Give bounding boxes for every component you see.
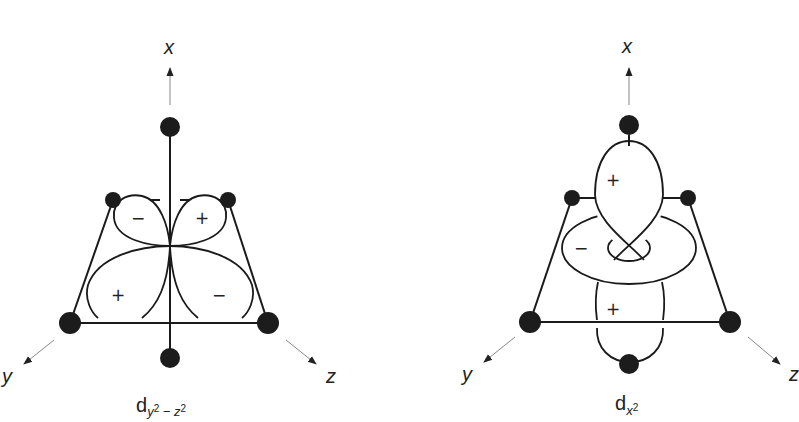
axis-y-arrow <box>24 340 54 364</box>
lobe-bottom-upper-left <box>596 282 598 320</box>
ligand-front-left <box>59 312 81 334</box>
ligand-back-right <box>220 192 236 208</box>
figure-dy2-z2: x y z − + + − <box>0 36 336 419</box>
ligand-bottom <box>160 348 180 368</box>
orbital-diagram-canvas: x y z − + + − <box>0 0 799 422</box>
ligand-back-right <box>680 190 696 206</box>
ligand-back-left <box>105 192 121 208</box>
axis-z-label: z <box>788 363 799 385</box>
sign-lower-right: − <box>212 285 226 305</box>
ligand-front-right <box>257 312 279 334</box>
lobe-bottom-upper-right <box>662 282 664 320</box>
sign-upper-left: − <box>131 208 145 228</box>
caption-dx2: dx2 <box>615 392 639 418</box>
ligand-bottom <box>619 354 639 374</box>
caption-dy2-z2: dy2 − z2 <box>136 394 187 419</box>
figure-dx2: x y z + − + dx2 <box>460 35 799 418</box>
axis-z-label: z <box>325 365 336 387</box>
lobe-lower-left-outer <box>87 246 170 318</box>
lobe-lower-right-inner <box>170 246 198 318</box>
ligand-back-left <box>564 190 580 206</box>
ligand-top <box>160 117 180 137</box>
ligand-front-right <box>719 311 741 333</box>
ligand-front-left <box>519 311 541 333</box>
sign-lower-left: + <box>111 285 125 305</box>
axis-y-label: y <box>460 363 473 385</box>
right-edge <box>228 200 268 323</box>
lobe-lower-left-inner <box>142 246 170 318</box>
lobe-lower-right-outer <box>170 246 253 318</box>
sign-bottom-lobe: + <box>606 299 620 319</box>
axis-y-arrow <box>484 337 515 362</box>
sign-top-lobe: + <box>606 170 620 190</box>
sign-torus: − <box>574 238 588 258</box>
axis-y-label: y <box>0 365 13 387</box>
sign-upper-right: + <box>195 208 209 228</box>
axis-x-label: x <box>163 36 175 58</box>
axis-x-label: x <box>621 35 633 57</box>
right-edge <box>688 198 730 322</box>
axis-z-arrow <box>748 337 780 364</box>
ligand-top <box>619 115 639 135</box>
axis-z-arrow <box>286 340 316 364</box>
